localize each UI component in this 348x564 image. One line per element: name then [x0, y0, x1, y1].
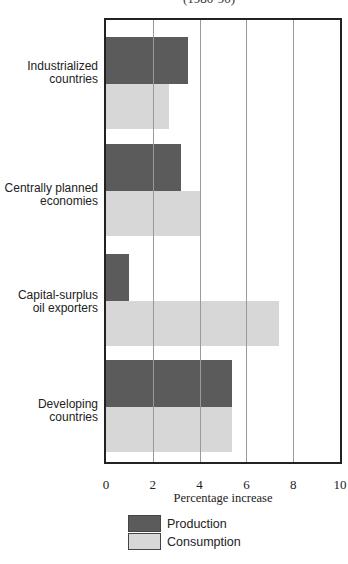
- bar-production: [106, 254, 129, 301]
- bar-consumption: [106, 301, 279, 346]
- category-label: Developingcountries: [0, 398, 98, 424]
- chart-title: (1980-90): [0, 0, 348, 7]
- gridline: [200, 20, 201, 462]
- bar-production: [106, 360, 232, 407]
- gridline: [246, 20, 247, 462]
- gridline: [153, 20, 154, 462]
- consumption-swatch: [128, 533, 161, 550]
- bar-production: [106, 144, 181, 191]
- legend-label: Consumption: [167, 535, 241, 549]
- plot-area: [104, 18, 342, 464]
- bar-production: [106, 37, 188, 84]
- bar-consumption: [106, 84, 169, 129]
- category-label: Capital-surplusoil exporters: [0, 289, 98, 315]
- gridline: [293, 20, 294, 462]
- category-label: Centrally plannedeconomies: [0, 182, 98, 208]
- legend-label: Production: [167, 517, 227, 531]
- category-label: Industrializedcountries: [0, 60, 98, 86]
- bar-consumption: [106, 407, 232, 452]
- x-axis-label: Percentage increase: [104, 491, 342, 506]
- production-swatch: [128, 515, 161, 532]
